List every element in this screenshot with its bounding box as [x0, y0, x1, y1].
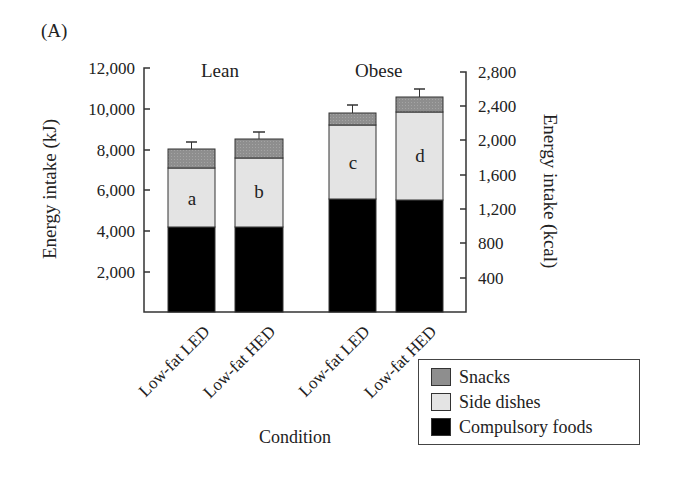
legend-item-snacks: Snacks [431, 366, 510, 388]
x-axis-title: Condition [259, 427, 331, 448]
bar-obese-low-fat-hed [396, 89, 443, 312]
bar-annotation-b: b [235, 181, 283, 203]
legend-label: Snacks [459, 367, 510, 388]
bar-lean-low-fat-hed [235, 132, 283, 312]
legend-label: Side dishes [459, 392, 541, 413]
compulsory-foods-swatch-icon [431, 418, 451, 436]
legend-label: Compulsory foods [459, 417, 593, 438]
legend: Snacks Side dishes Compulsory foods [418, 359, 640, 445]
bar-annotation-c: c [329, 152, 377, 174]
bar-obese-low-fat-led [329, 105, 376, 312]
side-dishes-swatch-icon [431, 393, 451, 411]
bar-lean-low-fat-led [168, 142, 215, 312]
legend-item-side-dishes: Side dishes [431, 391, 541, 413]
bar-annotation-d: d [396, 145, 444, 167]
snacks-swatch-icon [431, 368, 451, 386]
legend-item-compulsory-foods: Compulsory foods [431, 416, 593, 438]
bar-annotation-a: a [168, 188, 216, 210]
